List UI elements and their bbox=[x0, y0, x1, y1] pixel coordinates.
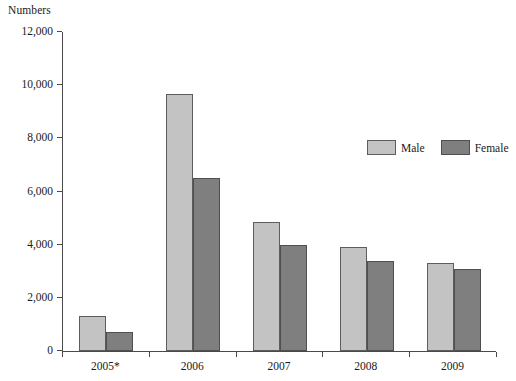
x-axis-tick-mark bbox=[409, 352, 410, 357]
y-axis-tick-mark bbox=[57, 84, 62, 85]
legend-item-female: Female bbox=[441, 140, 509, 155]
y-axis-tick-label: 8,000 bbox=[27, 129, 53, 145]
legend-label-male: Male bbox=[401, 142, 425, 154]
legend-swatch-male-icon bbox=[367, 140, 396, 155]
bar-male-2005 bbox=[79, 316, 106, 351]
bar-male-2008 bbox=[340, 247, 367, 351]
x-axis-tick-label: 2009 bbox=[441, 360, 464, 372]
bar-female-2005 bbox=[106, 332, 133, 351]
x-axis-tick-mark bbox=[236, 352, 237, 357]
bar-male-2007 bbox=[253, 222, 280, 351]
bars-layer bbox=[63, 32, 496, 351]
y-axis-tick-mark bbox=[57, 31, 62, 32]
y-axis-tick-label: 4,000 bbox=[27, 236, 53, 252]
x-axis-tick-mark bbox=[496, 352, 497, 357]
y-axis-title: Numbers bbox=[8, 4, 51, 16]
y-axis-tick-label: 12,000 bbox=[21, 23, 53, 39]
y-axis-tick-mark bbox=[57, 137, 62, 138]
legend-swatch-female-icon bbox=[441, 140, 470, 155]
y-axis-tick-mark bbox=[57, 244, 62, 245]
bar-female-2006 bbox=[193, 178, 220, 351]
x-axis-tick-label: 2008 bbox=[354, 360, 377, 372]
bar-female-2008 bbox=[367, 261, 394, 351]
x-axis-tick-label: 2007 bbox=[268, 360, 291, 372]
bar-male-2009 bbox=[427, 263, 454, 351]
x-axis-tick-mark bbox=[62, 352, 63, 357]
bar-female-2009 bbox=[454, 269, 481, 351]
x-axis-tick-mark bbox=[322, 352, 323, 357]
bar-chart: Numbers 02,0004,0006,0008,00010,00012,00… bbox=[0, 0, 516, 381]
y-axis-tick-label: 6,000 bbox=[27, 183, 53, 199]
y-axis-tick-mark bbox=[57, 297, 62, 298]
y-axis-tick-label: 10,000 bbox=[21, 76, 53, 92]
bar-female-2007 bbox=[280, 245, 307, 351]
y-axis-tick-mark bbox=[57, 191, 62, 192]
x-axis-tick-mark bbox=[149, 352, 150, 357]
legend-label-female: Female bbox=[475, 142, 509, 154]
x-axis-tick-label: 2005* bbox=[91, 360, 120, 372]
y-axis-tick-label: 0 bbox=[47, 342, 53, 358]
y-axis-tick-mark bbox=[57, 350, 62, 351]
x-axis-line bbox=[62, 351, 496, 352]
x-axis-tick-label: 2006 bbox=[181, 360, 204, 372]
chart-legend: Male Female bbox=[367, 140, 509, 155]
legend-item-male: Male bbox=[367, 140, 425, 155]
bar-male-2006 bbox=[166, 94, 193, 351]
y-axis-tick-label: 2,000 bbox=[27, 289, 53, 305]
